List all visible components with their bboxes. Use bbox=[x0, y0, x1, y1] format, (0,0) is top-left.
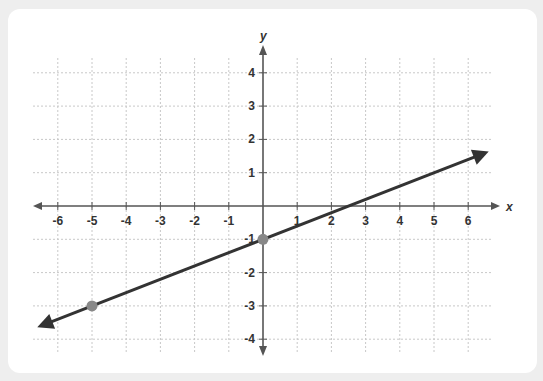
y-tick-label: 1 bbox=[248, 166, 255, 180]
x-tick-label: -1 bbox=[223, 214, 234, 228]
x-tick-label: 2 bbox=[328, 214, 335, 228]
y-axis-label: y bbox=[259, 29, 268, 43]
x-tick-label: -3 bbox=[155, 214, 166, 228]
coordinate-plane: xy-6-5-4-3-2-11234564321-1-2-3-4 bbox=[0, 0, 543, 381]
x-axis-label: x bbox=[505, 200, 514, 214]
x-tick-label: 3 bbox=[362, 214, 369, 228]
x-tick-label: 4 bbox=[396, 214, 403, 228]
y-tick-label: -3 bbox=[244, 299, 255, 313]
x-axis-right-arrow-icon bbox=[491, 202, 500, 210]
plotted-point bbox=[87, 300, 98, 311]
x-tick-label: -5 bbox=[87, 214, 98, 228]
x-tick-label: -2 bbox=[189, 214, 200, 228]
y-axis-down-arrow-icon bbox=[259, 346, 267, 356]
x-tick-label: -4 bbox=[121, 214, 132, 228]
y-tick-label: 2 bbox=[248, 132, 255, 146]
x-tick-label: -6 bbox=[52, 214, 63, 228]
x-axis-left-arrow-icon bbox=[33, 202, 42, 210]
plotted-point bbox=[258, 234, 269, 245]
y-tick-label: 4 bbox=[248, 66, 255, 80]
y-tick-label: -2 bbox=[244, 266, 255, 280]
y-tick-label: 3 bbox=[248, 99, 255, 113]
x-tick-label: 5 bbox=[431, 214, 438, 228]
y-axis-up-arrow-icon bbox=[259, 45, 267, 55]
y-tick-label: -4 bbox=[244, 332, 255, 346]
x-tick-label: 6 bbox=[465, 214, 472, 228]
